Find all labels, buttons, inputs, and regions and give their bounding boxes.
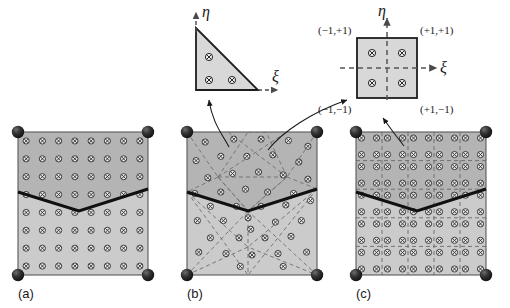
gauss-point xyxy=(137,209,143,215)
gauss-point xyxy=(23,174,29,180)
panel-c: (c) xyxy=(350,126,492,301)
gauss-point xyxy=(104,174,110,180)
gauss-point xyxy=(410,249,416,255)
gauss-point xyxy=(23,156,29,162)
gauss-point xyxy=(121,245,127,251)
gauss-point xyxy=(410,180,416,186)
gauss-point xyxy=(272,219,278,225)
gauss-point xyxy=(451,209,457,215)
gauss-point xyxy=(104,245,110,251)
gauss-point xyxy=(477,221,483,227)
gauss-point xyxy=(384,164,390,170)
gauss-point xyxy=(220,218,226,224)
gauss-point xyxy=(384,266,390,272)
gauss-point xyxy=(137,156,143,162)
gauss-point xyxy=(451,135,457,141)
gauss-point xyxy=(249,252,255,258)
gauss-point xyxy=(451,249,457,255)
gauss-point xyxy=(88,174,94,180)
gauss-point xyxy=(436,151,442,157)
panel-a: (a) xyxy=(12,126,154,301)
gauss-point xyxy=(236,235,242,241)
gauss-point xyxy=(23,138,29,144)
gauss-point xyxy=(373,266,379,272)
gauss-point xyxy=(436,192,442,198)
gauss-point xyxy=(121,156,127,162)
gauss-point xyxy=(462,180,468,186)
gauss-point xyxy=(477,249,483,255)
gauss-point xyxy=(384,221,390,227)
gauss-point xyxy=(56,263,62,269)
gauss-point xyxy=(425,192,431,198)
gauss-point xyxy=(56,227,62,233)
square-corner-label-top-right: (+1,+1) xyxy=(420,24,454,37)
gauss-point xyxy=(307,198,313,204)
gauss-point xyxy=(285,137,291,143)
gauss-point xyxy=(410,164,416,170)
gauss-point xyxy=(265,189,271,195)
gauss-point xyxy=(399,192,405,198)
gauss-point xyxy=(245,215,251,221)
gauss-point xyxy=(399,135,405,141)
gauss-point xyxy=(373,135,379,141)
gauss-point xyxy=(425,151,431,157)
gauss-point xyxy=(193,158,199,164)
gauss-point xyxy=(223,250,229,256)
gauss-point xyxy=(237,263,243,269)
gauss-point xyxy=(425,221,431,227)
gauss-point xyxy=(56,245,62,251)
gauss-point xyxy=(436,209,442,215)
square-corner-label-bottom-right: (+1,−1) xyxy=(420,103,454,116)
gauss-point xyxy=(104,156,110,162)
fem-mesh-figure: (a) xyxy=(0,0,510,308)
gauss-point xyxy=(104,227,110,233)
gauss-point xyxy=(358,151,364,157)
gauss-point xyxy=(288,233,294,239)
gauss-point xyxy=(410,237,416,243)
gauss-point xyxy=(384,209,390,215)
gauss-point xyxy=(137,263,143,269)
gauss-point xyxy=(399,209,405,215)
gauss-point xyxy=(373,221,379,227)
gauss-point xyxy=(462,151,468,157)
gauss-point xyxy=(72,263,78,269)
gauss-point xyxy=(451,164,457,170)
gauss-point xyxy=(477,164,483,170)
gauss-point xyxy=(436,249,442,255)
gauss-point xyxy=(384,151,390,157)
gauss-point xyxy=(462,237,468,243)
gauss-point xyxy=(462,209,468,215)
gauss-point xyxy=(358,249,364,255)
gauss-point xyxy=(255,169,261,175)
gauss-point xyxy=(202,139,208,145)
gauss-point xyxy=(121,209,127,215)
gauss-point xyxy=(451,221,457,227)
gauss-point xyxy=(399,221,405,227)
gauss-point xyxy=(436,164,442,170)
gauss-point xyxy=(39,191,45,197)
gauss-point xyxy=(39,174,45,180)
gauss-point xyxy=(425,135,431,141)
gauss-point xyxy=(121,138,127,144)
gauss-point xyxy=(258,136,264,142)
gauss-point xyxy=(231,136,237,142)
gauss-point xyxy=(373,237,379,243)
gauss-point xyxy=(207,235,213,241)
gauss-point xyxy=(244,153,250,159)
gauss-point xyxy=(88,227,94,233)
panel-c-label: (c) xyxy=(356,286,371,301)
gauss-point xyxy=(399,266,405,272)
gauss-point xyxy=(56,209,62,215)
gauss-point xyxy=(399,249,405,255)
square-eta-label: η xyxy=(378,2,386,20)
gauss-point xyxy=(358,180,364,186)
gauss-point xyxy=(373,209,379,215)
gauss-point xyxy=(462,135,468,141)
gauss-point xyxy=(137,245,143,251)
square-xi-label: ξ xyxy=(440,59,447,76)
gauss-point xyxy=(384,135,390,141)
gauss-point xyxy=(373,249,379,255)
gauss-point xyxy=(462,266,468,272)
gauss-point xyxy=(283,202,289,208)
gauss-point xyxy=(23,263,29,269)
